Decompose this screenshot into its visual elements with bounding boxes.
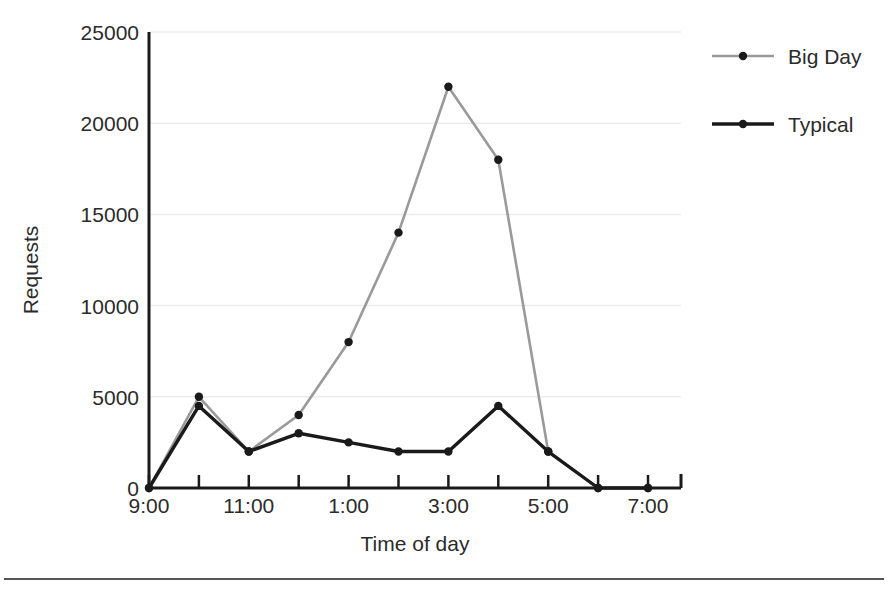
data-point-marker	[494, 402, 502, 410]
x-tick-label: 5:00	[528, 494, 569, 517]
figure-caption	[38, 586, 738, 600]
y-tick-label: 20000	[81, 112, 139, 135]
data-point-marker	[594, 484, 602, 492]
x-tick-label: 7:00	[628, 494, 669, 517]
legend-swatch-marker	[739, 120, 747, 128]
data-point-marker	[344, 338, 352, 346]
y-tick-label: 25000	[81, 21, 139, 44]
x-tick-label: 9:00	[129, 494, 170, 517]
data-point-marker	[494, 155, 502, 163]
data-point-marker	[245, 447, 253, 455]
y-tick-label: 5000	[92, 386, 139, 409]
legend-swatch-marker	[739, 52, 747, 60]
data-point-marker	[295, 411, 303, 419]
data-point-marker	[444, 447, 452, 455]
x-tick-label: 3:00	[428, 494, 469, 517]
y-tick-label: 15000	[81, 203, 139, 226]
figure-container: 0500010000150002000025000 9:0011:001:003…	[0, 0, 888, 600]
x-tick-label: 1:00	[328, 494, 369, 517]
y-axis-title: Requests	[19, 226, 42, 315]
data-point-marker	[394, 447, 402, 455]
legend-label: Typical	[788, 113, 853, 136]
y-tick-label: 10000	[81, 295, 139, 318]
x-tick-label: 11:00	[223, 494, 274, 517]
data-point-marker	[394, 228, 402, 236]
caption-divider	[4, 578, 884, 580]
data-point-marker	[145, 484, 153, 492]
data-point-marker	[444, 83, 452, 91]
data-point-marker	[195, 402, 203, 410]
data-point-marker	[544, 447, 552, 455]
data-point-marker	[644, 484, 652, 492]
line-chart: 0500010000150002000025000 9:0011:001:003…	[0, 0, 888, 600]
data-point-marker	[344, 438, 352, 446]
x-axis-title: Time of day	[361, 532, 470, 555]
data-point-marker	[295, 429, 303, 437]
legend-label: Big Day	[788, 45, 862, 68]
data-point-marker	[195, 393, 203, 401]
